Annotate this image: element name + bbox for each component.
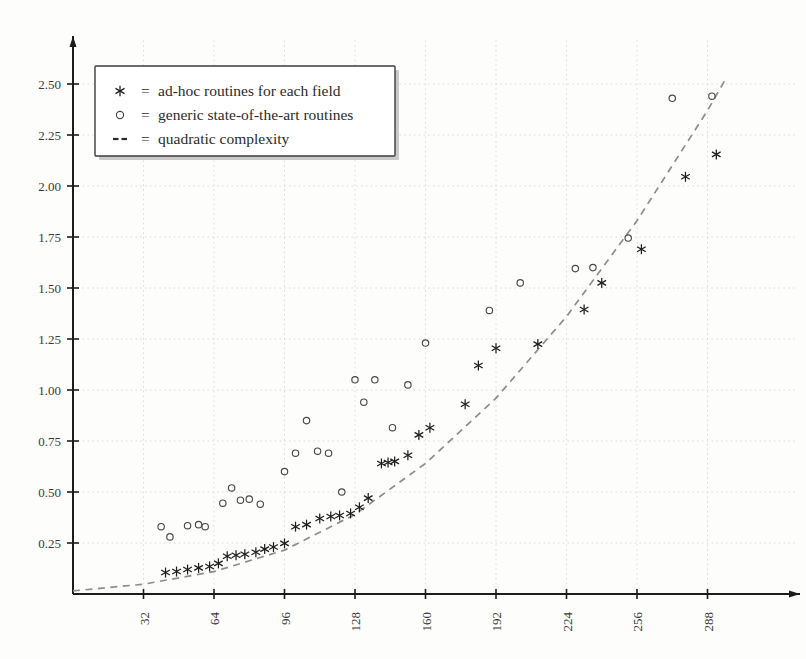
data-point-asterisk [161, 568, 170, 578]
legend-equals-sign: = [141, 82, 150, 99]
x-tick-label: 64 [207, 612, 222, 626]
scatter-chart: 0.250.500.751.001.251.501.752.002.252.50… [0, 0, 806, 659]
data-point-circle [405, 382, 411, 388]
data-point-circle [590, 264, 596, 270]
y-tick-label: 0.25 [38, 536, 61, 551]
data-point-asterisk [637, 244, 646, 254]
data-point-asterisk [681, 172, 690, 182]
data-point-asterisk [260, 544, 269, 554]
data-point-circle [314, 448, 320, 454]
data-point-asterisk [426, 423, 435, 433]
data-point-asterisk [183, 565, 192, 575]
data-point-circle [625, 235, 631, 241]
x-axis-ticks: 326496128160192224256288 [137, 589, 716, 632]
data-point-circle [158, 523, 164, 529]
data-point-asterisk [223, 551, 232, 561]
data-point-circle [220, 500, 226, 506]
data-point-asterisk [194, 563, 203, 573]
data-point-asterisk [415, 430, 424, 440]
data-point-asterisk [232, 550, 241, 560]
data-point-circle [167, 534, 173, 540]
y-tick-label: 0.50 [38, 485, 61, 500]
data-point-asterisk [172, 567, 181, 577]
data-point-asterisk [214, 558, 223, 568]
data-point-asterisk [315, 514, 324, 524]
legend-equals-sign: = [141, 106, 150, 123]
data-point-circle [246, 496, 252, 502]
data-point-circle [202, 523, 208, 529]
data-point-circle [325, 450, 331, 456]
data-point-circle [572, 265, 578, 271]
y-tick-label: 1.50 [38, 281, 61, 296]
data-point-asterisk [326, 511, 335, 521]
legend-item-label[interactable]: quadratic complexity [158, 130, 290, 147]
data-point-asterisk [252, 547, 261, 557]
data-point-asterisk [404, 450, 413, 460]
y-axis-arrow [70, 36, 77, 47]
data-point-asterisk [461, 399, 470, 409]
y-tick-label: 1.25 [38, 332, 61, 347]
y-tick-label: 0.75 [38, 434, 61, 449]
data-point-asterisk [364, 493, 373, 503]
data-point-asterisk [492, 343, 501, 353]
data-point-asterisk [241, 549, 250, 559]
y-tick-label: 1.75 [38, 230, 61, 245]
x-tick-label: 288 [701, 612, 716, 632]
series-generic-circles [158, 93, 715, 540]
legend-equals-sign: = [141, 130, 150, 147]
legend-item-label[interactable]: ad-hoc routines for each field [158, 82, 341, 99]
data-point-circle [669, 95, 675, 101]
x-tick-label: 256 [630, 612, 645, 632]
data-point-asterisk [580, 304, 589, 314]
data-point-circle [389, 425, 395, 431]
x-axis-arrow [789, 591, 800, 598]
data-point-asterisk [534, 339, 543, 349]
data-point-circle [237, 497, 243, 503]
chart-svg: 0.250.500.751.001.251.501.752.002.252.50… [0, 0, 806, 659]
y-tick-label: 1.00 [38, 383, 61, 398]
y-tick-label: 2.00 [38, 179, 61, 194]
data-point-circle [517, 280, 523, 286]
x-tick-label: 160 [419, 612, 434, 632]
data-point-asterisk [269, 542, 278, 552]
legend-item-label[interactable]: generic state-of-the-art routines [158, 106, 353, 123]
data-point-circle [257, 501, 263, 507]
data-point-circle [184, 522, 190, 528]
data-point-circle [339, 489, 345, 495]
x-tick-label: 192 [489, 612, 504, 632]
data-point-asterisk [474, 361, 483, 371]
data-point-asterisk [355, 502, 364, 512]
data-point-circle [303, 417, 309, 423]
y-tick-label: 2.50 [38, 77, 61, 92]
x-tick-label: 224 [560, 612, 575, 632]
data-point-asterisk [335, 510, 344, 520]
data-point-asterisk [712, 149, 721, 159]
data-point-asterisk [205, 561, 214, 571]
x-tick-label: 32 [137, 612, 152, 625]
legend[interactable]: =ad-hoc routines for each field=generic … [95, 66, 399, 160]
data-point-circle [709, 93, 715, 99]
data-point-circle [486, 307, 492, 313]
x-tick-label: 128 [348, 612, 363, 632]
data-point-circle [372, 377, 378, 383]
data-point-asterisk [291, 522, 300, 532]
data-point-asterisk [302, 520, 311, 530]
x-tick-label: 96 [278, 612, 293, 626]
data-point-asterisk [280, 538, 289, 548]
data-point-circle [195, 521, 201, 527]
data-point-circle [292, 450, 298, 456]
data-point-asterisk [597, 278, 606, 288]
data-point-circle [361, 399, 367, 405]
data-point-asterisk [346, 508, 355, 518]
y-tick-label: 2.25 [38, 128, 61, 143]
data-point-circle [228, 485, 234, 491]
